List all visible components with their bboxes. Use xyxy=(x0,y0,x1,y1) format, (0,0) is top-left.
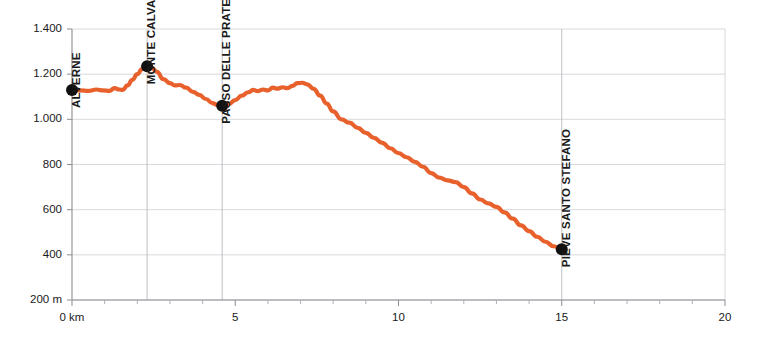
y-tick-label: 600 xyxy=(43,203,62,215)
y-tick-label: 200 m xyxy=(30,293,62,305)
poi-label: PASSO DELLE PRATELLE xyxy=(220,0,232,124)
elevation-profile-chart: 1.4001.2001.000800600400200 m 0 km510152… xyxy=(0,0,765,341)
x-tick-label: 5 xyxy=(232,311,238,323)
y-tick-label: 1.400 xyxy=(33,22,62,34)
x-tick-label: 15 xyxy=(555,311,568,323)
y-axis-tick-labels-group: 1.4001.2001.000800600400200 m xyxy=(30,22,62,305)
poi-label: PIEVE SANTO STEFANO xyxy=(560,129,572,267)
y-tick-label: 400 xyxy=(43,248,62,260)
elevation-series-group xyxy=(72,66,562,249)
y-tick-label: 1.200 xyxy=(33,67,62,79)
tick-marks-group xyxy=(67,29,725,306)
x-tick-label: 10 xyxy=(392,311,405,323)
poi-labels-group: ALVERNEMONTE CALVANOPASSO DELLE PRATELLE… xyxy=(70,0,572,267)
x-tick-label: 20 xyxy=(719,311,732,323)
x-tick-label: 0 km xyxy=(60,311,85,323)
y-tick-label: 1.000 xyxy=(33,112,62,124)
elevation-line xyxy=(72,66,562,249)
poi-label: ALVERNE xyxy=(70,52,82,108)
gridlines-group xyxy=(72,29,725,300)
chart-canvas: 1.4001.2001.000800600400200 m 0 km510152… xyxy=(0,0,765,341)
poi-label: MONTE CALVANO xyxy=(145,0,157,84)
x-axis-tick-labels-group: 0 km5101520 xyxy=(60,311,732,323)
y-tick-label: 800 xyxy=(43,158,62,170)
